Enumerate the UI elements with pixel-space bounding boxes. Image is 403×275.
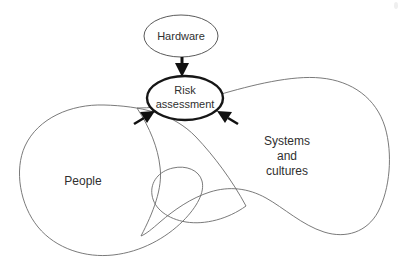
diagram-canvas: Hardware Risk assessment People Systems … <box>0 0 403 275</box>
arrow-hardware-to-risk <box>175 57 189 77</box>
arrow-systems-to-risk-head <box>217 111 232 123</box>
region-label-systems-line3: cultures <box>266 164 308 178</box>
arrow-systems-to-risk <box>217 111 238 124</box>
node-label-risk-assessment-line2: assessment <box>156 98 215 110</box>
arrow-people-to-risk <box>134 111 155 124</box>
region-label-systems-line2: and <box>277 149 297 163</box>
region-label-systems-line1: Systems <box>264 134 310 148</box>
node-label-risk-assessment-line1: Risk <box>174 84 196 96</box>
region-outline-people <box>19 105 246 256</box>
risk-assessment-diagram: Hardware Risk assessment People Systems … <box>0 0 403 275</box>
scan-artifact <box>394 2 398 9</box>
arrow-systems-to-risk-shaft <box>228 118 238 124</box>
node-label-hardware: Hardware <box>157 30 205 42</box>
region-label-people: People <box>64 174 102 188</box>
arrow-people-to-risk-shaft <box>134 118 144 124</box>
